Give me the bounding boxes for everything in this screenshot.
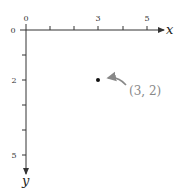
x-axis-label: x [166, 22, 174, 37]
y-tick-label-0: 0 [10, 26, 15, 35]
x-tick-label-0: 0 [23, 14, 28, 23]
x-tick-label-3: 3 [95, 14, 100, 23]
y-tick-label-5: 5 [11, 151, 16, 160]
point-label: (3, 2) [129, 84, 161, 98]
y-axis-label: y [21, 173, 30, 188]
y-tick-label-2: 2 [11, 76, 16, 85]
y-ticks [22, 55, 26, 155]
coordinate-diagram: 0 3 5 0 2 5 x y (3, 2) [0, 0, 183, 194]
point-marker [96, 78, 100, 82]
x-tick-label-5: 5 [144, 14, 149, 23]
x-ticks [50, 26, 147, 30]
curved-arrow-icon [108, 78, 126, 85]
